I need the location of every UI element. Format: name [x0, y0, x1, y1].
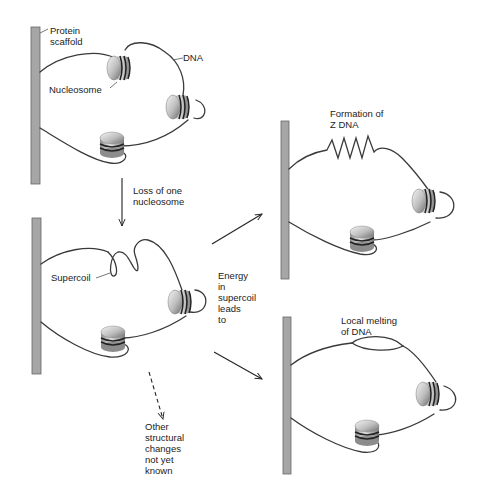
label-z-dna: Formation ofZ DNA — [330, 108, 383, 130]
panel-z-dna — [281, 121, 454, 279]
nucleosome-icon — [107, 56, 130, 80]
protein-scaffold — [281, 121, 289, 279]
nucleosome-icon — [355, 420, 379, 446]
nucleosome-icon — [168, 290, 191, 314]
arrow-to-melting — [214, 352, 262, 379]
nucleosome-icon — [416, 382, 439, 406]
protein-scaffold — [32, 218, 41, 374]
panel-initial-state — [31, 27, 205, 184]
nucleosome-icon — [100, 132, 124, 158]
protein-scaffold — [283, 317, 291, 474]
label-energy: Energyinsupercoilleadsto — [218, 270, 256, 325]
nucleosome-icon — [166, 95, 189, 119]
panel-local-melting — [283, 317, 456, 474]
nucleosome-icon — [350, 226, 374, 252]
diagram-canvas — [0, 0, 486, 499]
label-protein-scaffold: Proteinscaffold — [50, 25, 83, 47]
nucleosome-icon — [101, 326, 125, 352]
label-supercoil: Supercoil — [51, 272, 91, 283]
arrow-dashed-other — [149, 372, 163, 419]
arrow-to-z-dna — [212, 214, 262, 244]
label-local-melting: Local meltingof DNA — [341, 315, 397, 337]
label-nucleosome: Nucleosome — [49, 84, 102, 95]
label-loss-of-nucleosome: Loss of onenucleosome — [133, 185, 184, 207]
panel-supercoiled-state — [32, 218, 206, 374]
nucleosome-icon — [412, 189, 435, 213]
label-dna: DNA — [183, 52, 203, 63]
label-other-changes: Otherstructuralchangesnot yetknown — [145, 421, 184, 476]
protein-scaffold — [31, 27, 40, 184]
